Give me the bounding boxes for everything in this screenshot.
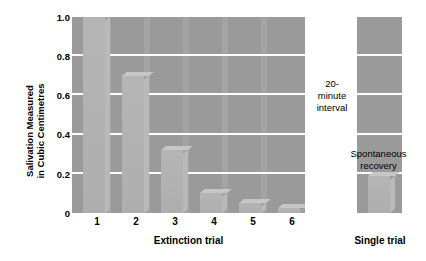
bar-face (368, 176, 390, 213)
bar-single-trial (368, 176, 390, 213)
x-axis-tick-labels: 1 2 3 4 5 6 (72, 216, 305, 232)
bar-face (122, 76, 144, 213)
x-tick-1: 1 (94, 216, 100, 227)
y-tick-0.2: 0.2 (40, 169, 70, 180)
bar-trial-2 (122, 76, 144, 213)
bar-trial-3 (161, 150, 183, 213)
recovery-note: Spontaneous recovery (331, 148, 426, 172)
gridline-0.6 (357, 93, 402, 95)
bar-trial-1 (83, 17, 105, 213)
bar-side (300, 208, 305, 213)
y-axis-title-line-1: Salivation Measured (24, 83, 35, 178)
column-gap (261, 17, 267, 213)
bar-side (390, 176, 395, 213)
interval-note-line-1: 20- (307, 78, 357, 90)
y-tick-0.4: 0.4 (40, 129, 70, 140)
recovery-note-line-1: Spontaneous (331, 148, 426, 160)
y-tick-0.8: 0.8 (40, 51, 70, 62)
interval-note-line-2: minute (307, 90, 357, 102)
x-axis-title-single-trial: Single trial (335, 235, 425, 246)
recovery-note-line-2: recovery (331, 160, 426, 172)
bar-side (144, 76, 149, 213)
bar-cap (161, 146, 193, 150)
bar-face (239, 203, 261, 213)
y-tick-1.0: 1.0 (40, 12, 70, 23)
x-tick-2: 2 (133, 216, 139, 227)
interval-note: 20- minute interval (307, 78, 357, 114)
bar-face (278, 208, 300, 213)
x-tick-5: 5 (250, 216, 256, 227)
bar-face (200, 193, 222, 213)
bar-side (105, 17, 110, 213)
bar-side (183, 150, 188, 213)
bar-face (161, 150, 183, 213)
bar-trial-6 (278, 208, 300, 213)
x-axis-title-extinction: Extinction trial (72, 235, 305, 246)
bar-cap (239, 199, 271, 203)
interval-note-line-3: interval (307, 102, 357, 114)
chart-figure: Salivation Measured in Cubic Centimetres… (0, 0, 426, 261)
y-axis-tick-labels: 1.0 0.8 0.6 0.4 0.2 0 (40, 0, 70, 261)
gridline-0.8 (357, 54, 402, 56)
bar-trial-5 (239, 203, 261, 213)
y-tick-0: 0 (40, 208, 70, 219)
bar-cap (122, 72, 154, 76)
x-tick-4: 4 (211, 216, 217, 227)
column-gap (222, 17, 228, 213)
bar-cap (278, 204, 305, 208)
bar-cap (200, 189, 232, 193)
bar-cap (368, 172, 400, 176)
bar-trial-4 (200, 193, 222, 213)
plot-area-spontaneous-recovery (357, 17, 402, 213)
x-tick-3: 3 (172, 216, 178, 227)
gridline-0.4 (357, 133, 402, 135)
bar-face (83, 17, 105, 213)
y-tick-0.6: 0.6 (40, 90, 70, 101)
plot-area-extinction (72, 17, 305, 213)
x-tick-6: 6 (289, 216, 295, 227)
